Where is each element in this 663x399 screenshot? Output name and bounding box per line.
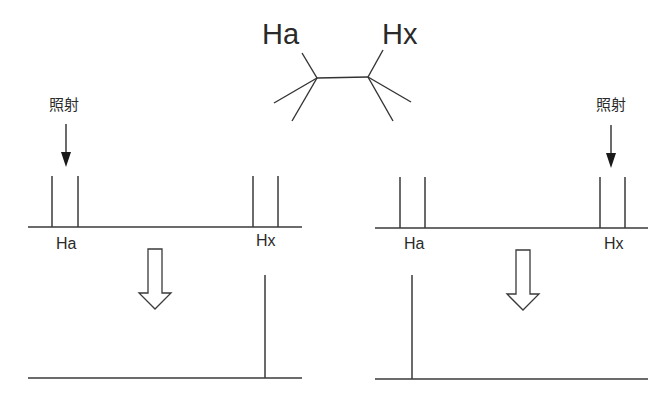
left-spectrum-after <box>28 275 302 378</box>
right-spectrum-before <box>375 177 648 228</box>
right-spectrum-after <box>375 275 648 379</box>
left-irradiation-arrow <box>61 124 71 167</box>
molecule-ha-label: Ha <box>262 20 299 49</box>
right-irradiation-arrow <box>606 125 616 168</box>
molecule-hx-label: Hx <box>382 20 417 49</box>
right-result-arrow-icon <box>507 250 539 310</box>
left-spectrum-before <box>28 176 302 227</box>
right-ha-peak-label: Ha <box>404 236 424 252</box>
bond-left-lower-1 <box>274 78 317 103</box>
left-irradiation-label: 照射 <box>49 98 79 113</box>
decoupling-diagram <box>0 0 663 399</box>
right-irradiation-label: 照射 <box>596 98 626 113</box>
bond-left-lower-2 <box>292 78 317 121</box>
left-result-arrow-icon <box>139 249 171 309</box>
bond-to-hx <box>368 50 383 77</box>
right-hx-peak-label: Hx <box>604 236 624 252</box>
bond-to-ha <box>302 53 317 78</box>
left-hx-peak-label: Hx <box>256 233 276 249</box>
c-c-bond <box>317 77 368 78</box>
molecule-structure <box>274 50 411 121</box>
left-ha-peak-label: Ha <box>56 236 76 252</box>
